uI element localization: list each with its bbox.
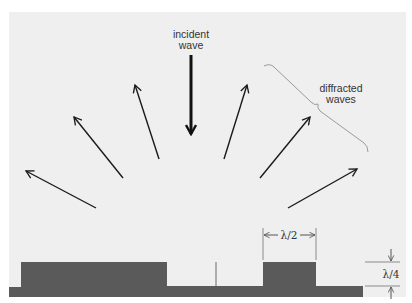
width-dim-label: λ/2 [281,229,298,241]
diffraction-diagram: incident wave diffracted waves λ/2 λ/4 [0,0,412,303]
incident-label-line2: wave [178,39,204,51]
background-panel [9,12,406,297]
height-dim-label: λ/4 [383,268,400,280]
diffracted-label-line2: waves [325,93,356,105]
